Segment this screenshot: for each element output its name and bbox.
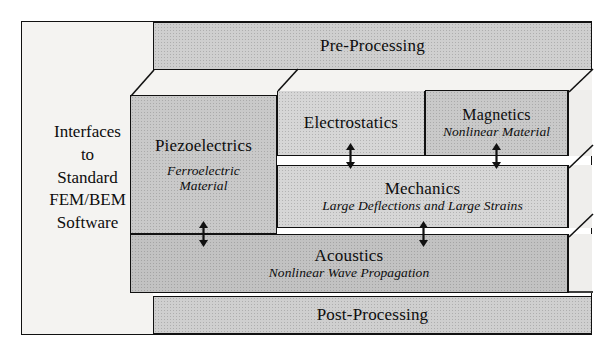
depth-edge-top-left: [126, 66, 160, 102]
coupling-arrow-mechanics-acoustics: [416, 221, 431, 247]
coupling-arrow-magnetics-mechanics: [489, 143, 504, 169]
interfaces-line-3: Standard: [49, 167, 126, 190]
acoustics-title: Acoustics: [315, 246, 384, 265]
pre-processing-label: Pre-Processing: [320, 36, 425, 55]
interfaces-line-5: Software: [49, 212, 126, 235]
piezoelectrics-subtitle-line1: Ferroelectric: [167, 163, 240, 178]
diagram-canvas: Interfaces to Standard FEM/BEM Software …: [0, 0, 612, 356]
post-processing-label: Post-Processing: [317, 305, 429, 324]
depth-edge-magnetics-right: [563, 66, 597, 98]
mechanics-block: Mechanics Large Deflections and Large St…: [277, 165, 568, 228]
interfaces-line-1: Interfaces: [49, 121, 126, 144]
magnetics-subtitle: Nonlinear Material: [443, 124, 550, 139]
interfaces-panel-label: Interfaces to Standard FEM/BEM Software: [49, 121, 126, 236]
magnetics-title: Magnetics: [462, 106, 530, 124]
depth-edge-acoustics-right: [563, 211, 597, 243]
depth-edge-mechanics-right: [563, 142, 597, 174]
interfaces-line-4: FEM/BEM: [49, 189, 126, 212]
piezoelectrics-block: Piezoelectrics Ferroelectric Material: [130, 95, 277, 234]
coupling-arrow-electrostatics-mechanics: [343, 143, 358, 169]
electrostatics-title: Electrostatics: [304, 113, 398, 132]
pre-processing-block: Pre-Processing: [153, 22, 592, 70]
depth-edge-electrostatics-left: [272, 66, 302, 96]
interfaces-line-2: to: [49, 144, 126, 167]
post-processing-block: Post-Processing: [153, 296, 592, 334]
piezoelectrics-title: Piezoelectrics: [155, 136, 252, 155]
piezoelectrics-subtitle-line2: Material: [179, 178, 227, 193]
acoustics-subtitle: Nonlinear Wave Propagation: [269, 265, 430, 280]
mechanics-subtitle: Large Deflections and Large Strains: [322, 198, 523, 213]
mechanics-title: Mechanics: [385, 179, 460, 198]
coupling-arrow-piezoelectrics-acoustics: [196, 221, 211, 247]
depth-edge-acoustics-bottom-right: [563, 288, 597, 310]
